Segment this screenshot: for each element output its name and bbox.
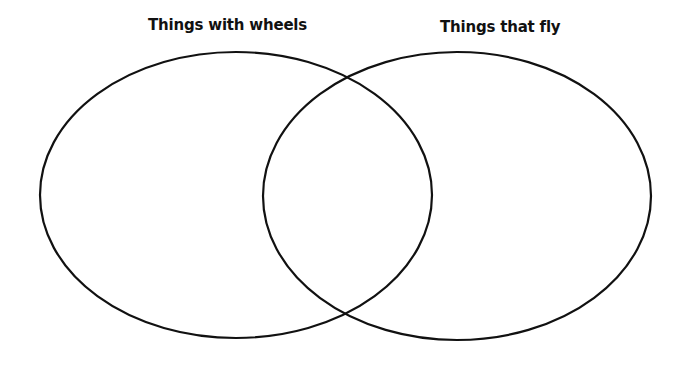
ellipse-things-with-wheels	[40, 52, 432, 338]
ellipse-things-that-fly	[263, 52, 651, 340]
venn-diagram	[0, 0, 684, 366]
